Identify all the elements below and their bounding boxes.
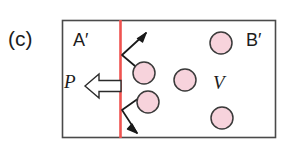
particle-lower-left <box>137 91 159 113</box>
particle-upper-left <box>133 62 155 84</box>
panel-label: (c) <box>8 28 33 49</box>
particle-middle <box>174 69 196 91</box>
left-region-label: A′ <box>73 31 88 49</box>
pressure-label: P <box>64 72 76 91</box>
thermodynamics-figure-panel-c: (c) A′ B′ P V <box>0 0 296 153</box>
particle-upper-right <box>210 32 232 54</box>
right-region-label: B′ <box>246 31 261 49</box>
particle-lower-right <box>211 107 233 129</box>
volume-label: V <box>213 73 225 92</box>
figure-canvas <box>0 0 296 153</box>
